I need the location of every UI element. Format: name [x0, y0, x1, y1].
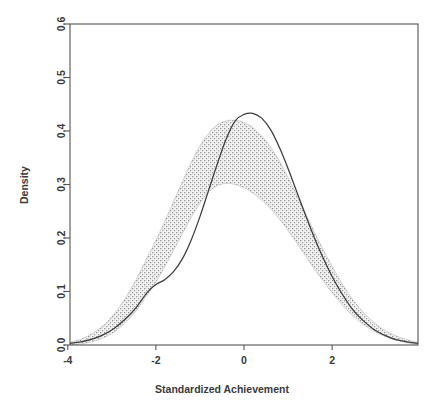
density-plot-figure: 0.00.10.20.30.40.50.6 -4-202 Standardize…: [0, 0, 438, 413]
y-tick-label: 0.3: [55, 177, 67, 192]
y-tick-label: 0.4: [55, 124, 67, 139]
x-tick-label: 0: [241, 354, 247, 366]
x-tick-label: -2: [151, 354, 160, 366]
y-tick-label: 0.6: [55, 17, 67, 32]
y-tick-label: 0.0: [55, 338, 67, 353]
density-plot-svg: 0.00.10.20.30.40.50.6 -4-202 Standardize…: [0, 0, 438, 413]
y-tick-label: 0.2: [55, 231, 67, 246]
y-axis-title: Density: [18, 166, 30, 204]
x-axis-title: Standardized Achievement: [155, 383, 289, 395]
x-tick-label: 2: [329, 354, 335, 366]
y-tick-label: 0.5: [55, 70, 67, 85]
y-tick-label: 0.1: [55, 284, 67, 299]
x-tick-label: -4: [63, 354, 72, 366]
